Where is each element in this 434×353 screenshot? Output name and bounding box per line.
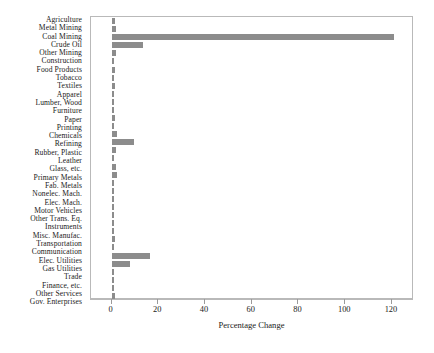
bar-row	[91, 90, 412, 98]
bar	[112, 147, 116, 153]
bar-row	[91, 179, 412, 187]
bar	[112, 123, 114, 129]
x-axis-tick	[251, 299, 252, 304]
bar	[112, 50, 117, 56]
plot-area	[90, 16, 413, 299]
bar	[112, 131, 117, 137]
bar-row	[91, 235, 412, 243]
bar	[112, 75, 114, 81]
bar-row	[91, 138, 412, 146]
bar	[112, 83, 116, 89]
bar	[112, 58, 114, 64]
bar-row	[91, 154, 412, 162]
bar-row	[91, 163, 412, 171]
bar-row	[91, 187, 412, 195]
bar	[112, 228, 114, 234]
x-axis-tick	[111, 299, 112, 304]
x-axis-tick	[157, 299, 158, 304]
bar-row	[91, 66, 412, 74]
bar-row	[91, 243, 412, 251]
bar-row	[91, 203, 412, 211]
bar-row	[91, 33, 412, 41]
bar-row	[91, 106, 412, 114]
bar-row	[91, 17, 412, 25]
bar-row	[91, 98, 412, 106]
bar	[112, 155, 114, 161]
bar	[112, 269, 114, 275]
x-axis-title: Percentage Change	[90, 320, 413, 330]
bar-row	[91, 122, 412, 130]
bar-row	[91, 260, 412, 268]
bar-row	[91, 219, 412, 227]
bar-row	[91, 57, 412, 65]
bar	[112, 18, 116, 24]
x-axis-tick	[344, 299, 345, 304]
bar-row	[91, 41, 412, 49]
x-axis-tick	[204, 299, 205, 304]
bar	[112, 212, 114, 218]
y-axis-category-labels: AgricultureMetal MiningCoal MiningCrude …	[0, 16, 86, 298]
bar	[112, 139, 134, 145]
x-axis-tick	[391, 299, 392, 304]
bar	[112, 34, 395, 40]
bar	[112, 261, 131, 267]
bar-row	[91, 276, 412, 284]
bar-row	[91, 82, 412, 90]
x-axis-tick-label: 80	[293, 305, 301, 314]
bar	[112, 244, 114, 250]
bar	[112, 115, 116, 121]
y-axis-label: Gov. Enterprises	[0, 298, 86, 306]
bar-row	[91, 211, 412, 219]
bar-row	[91, 195, 412, 203]
bar	[112, 277, 114, 283]
bar	[112, 26, 116, 32]
bar-row	[91, 74, 412, 82]
x-axis-tick-label: 20	[153, 305, 161, 314]
bar	[112, 285, 114, 291]
bar	[112, 164, 117, 170]
bar	[112, 204, 114, 210]
x-axis-tick-label: 0	[108, 305, 112, 314]
bar-row	[91, 114, 412, 122]
bar	[112, 107, 114, 113]
bar	[112, 253, 151, 259]
bar-series	[91, 17, 412, 298]
bar	[112, 180, 114, 186]
bar	[112, 172, 117, 178]
bar-row	[91, 146, 412, 154]
x-axis-tick-label: 60	[247, 305, 255, 314]
bar	[112, 188, 114, 194]
bar-row	[91, 227, 412, 235]
x-axis-tick-label: 120	[385, 305, 398, 314]
bar	[112, 91, 114, 97]
x-axis-tick-label: 100	[338, 305, 351, 314]
bar	[112, 236, 115, 242]
bar	[112, 99, 114, 105]
bar	[112, 67, 115, 73]
bar-row	[91, 268, 412, 276]
bar-row	[91, 25, 412, 33]
bar-chart-figure: AgricultureMetal MiningCoal MiningCrude …	[0, 0, 434, 353]
bar	[112, 196, 114, 202]
x-axis-tick-label: 40	[200, 305, 208, 314]
x-axis-tick	[297, 299, 298, 304]
bar	[112, 220, 114, 226]
bar-row	[91, 284, 412, 292]
bar-row	[91, 251, 412, 259]
bar-row	[91, 49, 412, 57]
bar-row	[91, 130, 412, 138]
bar	[112, 42, 144, 48]
bar-row	[91, 171, 412, 179]
